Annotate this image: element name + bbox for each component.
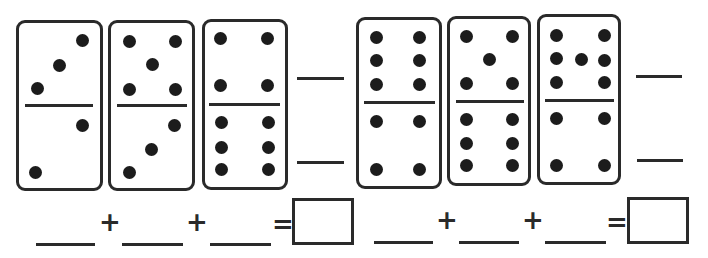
pip <box>460 159 473 172</box>
equals-sign: = <box>606 209 628 235</box>
pip <box>262 116 275 129</box>
pip <box>76 119 89 132</box>
pip <box>169 35 182 48</box>
pip <box>123 35 136 48</box>
pip <box>214 79 227 92</box>
pip <box>370 78 383 91</box>
pip <box>598 112 611 125</box>
pip <box>460 113 473 126</box>
pip <box>413 115 426 128</box>
plus-sign: + <box>99 209 121 235</box>
domino-4-divider <box>364 101 435 104</box>
pip <box>506 30 519 43</box>
pip <box>460 77 473 90</box>
pip <box>460 137 473 150</box>
pip <box>262 141 275 154</box>
pip <box>550 29 563 42</box>
domino-top-total-blank-2[interactable] <box>636 75 682 78</box>
pip <box>413 31 426 44</box>
domino-bottom-total-blank-2[interactable] <box>637 159 683 162</box>
pip <box>146 58 159 71</box>
equation-1-blank-3[interactable] <box>210 243 271 246</box>
pip <box>598 29 611 42</box>
pip <box>53 59 66 72</box>
domino-1-divider <box>25 104 93 107</box>
pip <box>483 53 496 66</box>
pip <box>598 54 611 67</box>
pip <box>370 163 383 176</box>
pip <box>76 34 89 47</box>
answer-box-1[interactable] <box>292 198 354 245</box>
pip <box>370 54 383 67</box>
pip <box>460 30 473 43</box>
pip <box>169 83 182 96</box>
equation-1-blank-1[interactable] <box>36 243 95 246</box>
pip <box>370 115 383 128</box>
domino-6-divider <box>545 99 614 102</box>
pip <box>215 116 228 129</box>
plus-sign: + <box>522 207 544 233</box>
pip <box>550 112 563 125</box>
pip <box>261 32 274 45</box>
pip <box>370 31 383 44</box>
plus-sign: + <box>436 207 458 233</box>
pip <box>550 159 563 172</box>
equation-2-blank-2[interactable] <box>459 241 519 244</box>
pip <box>29 166 42 179</box>
domino-5-divider <box>456 100 524 103</box>
pip <box>575 53 588 66</box>
plus-sign: + <box>186 209 208 235</box>
answer-box-2[interactable] <box>627 197 689 244</box>
pip <box>506 113 519 126</box>
pip <box>123 83 136 96</box>
pip <box>506 137 519 150</box>
pip <box>214 32 227 45</box>
pip <box>598 159 611 172</box>
pip <box>550 52 563 65</box>
equation-2-blank-3[interactable] <box>545 241 606 244</box>
pip <box>598 76 611 89</box>
pip <box>123 166 136 179</box>
pip <box>31 82 44 95</box>
pip <box>506 77 519 90</box>
pip <box>261 79 274 92</box>
domino-top-total-blank-1[interactable] <box>297 77 344 80</box>
pip <box>168 119 181 132</box>
domino-2-divider <box>117 104 187 107</box>
pip <box>145 143 158 156</box>
pip <box>413 163 426 176</box>
pip <box>506 159 519 172</box>
pip <box>413 78 426 91</box>
pip <box>413 54 426 67</box>
pip <box>215 141 228 154</box>
pip <box>262 163 275 176</box>
equation-1-blank-2[interactable] <box>122 243 183 246</box>
domino-3-divider <box>209 103 280 106</box>
equation-2-blank-1[interactable] <box>374 241 433 244</box>
domino-bottom-total-blank-1[interactable] <box>297 161 344 164</box>
pip <box>550 76 563 89</box>
pip <box>215 163 228 176</box>
equals-sign: = <box>272 211 294 237</box>
